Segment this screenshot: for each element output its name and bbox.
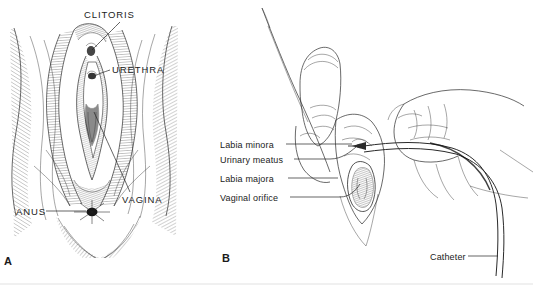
label-urinary-meatus: Urinary meatus — [220, 155, 283, 165]
leader-urinary-meatus — [294, 147, 356, 159]
label-catheter: Catheter — [430, 252, 466, 262]
panel-b-drawing — [262, 8, 533, 278]
label-labia-majora: Labia majora — [220, 174, 274, 184]
label-labia-minora: Labia minora — [220, 140, 274, 150]
label-vagina: VAGINA — [122, 194, 163, 205]
panel-letter-a: A — [4, 255, 12, 267]
panel-letter-b: B — [222, 252, 230, 264]
panel-b-leaders — [286, 144, 498, 256]
label-vaginal-orifice: Vaginal orifice — [220, 193, 278, 203]
figure-canvas: CLITORIS URETHRA VAGINA ANUS Labia minor… — [0, 0, 533, 290]
panel-a-drawing — [10, 24, 178, 266]
label-anus: ANUS — [16, 206, 46, 217]
label-clitoris: CLITORIS — [84, 9, 135, 20]
label-urethra: URETHRA — [112, 64, 164, 75]
